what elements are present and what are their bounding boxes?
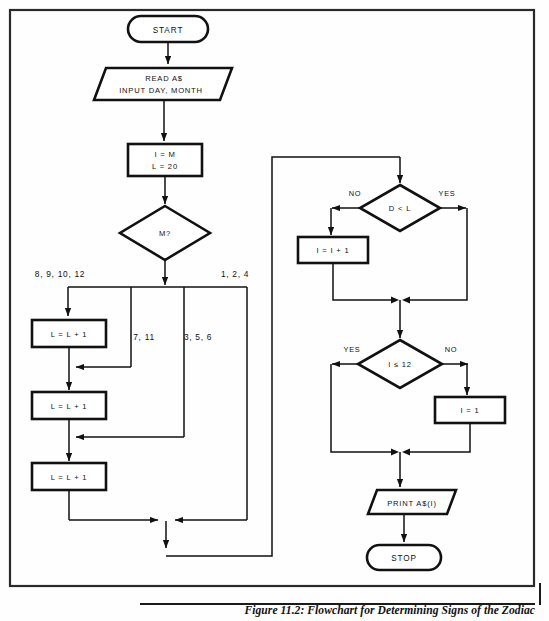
- node-read-label-2: INPUT DAY, MONTH: [119, 86, 203, 95]
- arrowhead-merge2-left: [391, 449, 399, 456]
- edge-i-one-merge: [410, 423, 470, 452]
- node-stop-label: STOP: [391, 554, 417, 563]
- arrowhead-merge-right: [402, 297, 410, 304]
- node-inc2-label: L = L + 1: [51, 402, 88, 411]
- arrowhead-merge2-right: [402, 449, 410, 456]
- caption-rule-corner: [539, 583, 541, 605]
- node-inc3-label: L = L + 1: [51, 473, 88, 482]
- arrowhead-merge-left: [391, 297, 399, 304]
- node-i-one-label: I = 1: [461, 406, 480, 415]
- figure-caption: Figure 11.2: Flowchart for Determining S…: [244, 604, 535, 617]
- node-init-label-2: L = 20: [152, 162, 178, 171]
- branch-label-1-2-4: 1, 2, 4: [221, 269, 249, 279]
- label-ile-no: NO: [445, 345, 458, 354]
- edge-left-to-right-column: [166, 157, 400, 556]
- node-i-inc-label: I = I + 1: [317, 246, 350, 255]
- node-init-label-1: I = M: [154, 150, 175, 159]
- label-dcmp-no: NO: [349, 189, 362, 198]
- branch-label-7-11: 7, 11: [133, 332, 155, 342]
- node-d-less-l-label: D < L: [389, 204, 411, 213]
- node-month-label: M?: [159, 229, 171, 238]
- node-inc1-label: L = L + 1: [51, 330, 88, 339]
- branch-label-3-5-6: 3, 5, 6: [184, 332, 212, 342]
- label-dcmp-yes: YES: [439, 189, 456, 198]
- node-read-label-1: READ A$: [145, 74, 183, 83]
- branch-label-8-9-10-12: 8, 9, 10, 12: [35, 269, 85, 279]
- node-print-label: PRINT A$(I): [387, 499, 437, 508]
- edge-i-inc-merge: [333, 263, 391, 300]
- node-i-le-12-label: I ≤ 12: [388, 360, 412, 369]
- figure-container: START READ A$ INPUT DAY, MONTH I = M L =…: [0, 0, 549, 621]
- node-start-label: START: [153, 26, 184, 35]
- label-ile-yes: YES: [344, 345, 361, 354]
- node-read: [94, 68, 232, 100]
- flowchart-canvas: START READ A$ INPUT DAY, MONTH I = M L =…: [0, 0, 549, 621]
- node-init: [128, 144, 202, 176]
